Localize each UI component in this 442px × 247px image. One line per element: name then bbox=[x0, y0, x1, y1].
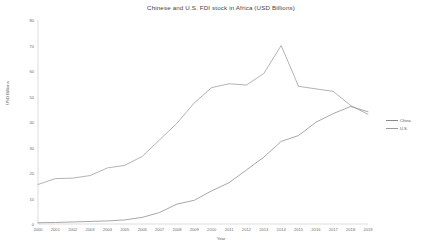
x-tick-label: 2015 bbox=[294, 227, 303, 232]
x-tick-label: 2012 bbox=[242, 227, 251, 232]
x-tick-label: 2006 bbox=[138, 227, 147, 232]
x-tick-label: 2005 bbox=[120, 227, 129, 232]
x-tick-label: 2002 bbox=[68, 227, 77, 232]
x-tick-label: 2009 bbox=[190, 227, 199, 232]
x-tick-label: 2017 bbox=[329, 227, 338, 232]
y-tick-label: 10 bbox=[29, 196, 34, 201]
y-tick-label: 50 bbox=[29, 94, 34, 99]
x-tick-label: 2007 bbox=[155, 227, 164, 232]
series-group bbox=[38, 46, 368, 223]
x-axis-label: Year bbox=[0, 236, 442, 241]
x-tick-label: 2003 bbox=[86, 227, 95, 232]
plot-svg bbox=[38, 20, 368, 224]
y-tick-label: 80 bbox=[29, 18, 34, 23]
y-axis-label: USD Billions bbox=[5, 81, 10, 105]
legend-item-china[interactable]: China bbox=[386, 116, 440, 124]
plot-area bbox=[38, 20, 368, 224]
x-tick-label: 2019 bbox=[363, 227, 372, 232]
y-axis-tick-labels: 01020304050607080 bbox=[18, 20, 34, 224]
legend-label: China bbox=[400, 118, 411, 123]
legend-swatch-icon bbox=[386, 128, 398, 129]
x-tick-label: 2008 bbox=[172, 227, 181, 232]
x-tick-label: 2000 bbox=[33, 227, 42, 232]
x-tick-label: 2013 bbox=[259, 227, 268, 232]
y-tick-label: 40 bbox=[29, 120, 34, 125]
x-tick-label: 2001 bbox=[51, 227, 60, 232]
legend-swatch-icon bbox=[386, 120, 398, 121]
x-tick-label: 2004 bbox=[103, 227, 112, 232]
x-tick-label: 2018 bbox=[346, 227, 355, 232]
x-tick-label: 2010 bbox=[207, 227, 216, 232]
y-tick-label: 70 bbox=[29, 43, 34, 48]
series-line-china bbox=[38, 106, 368, 222]
y-tick-label: 30 bbox=[29, 145, 34, 150]
x-tick-label: 2016 bbox=[311, 227, 320, 232]
y-tick-label: 20 bbox=[29, 171, 34, 176]
series-line-u-s bbox=[38, 46, 368, 185]
x-tick-label: 2014 bbox=[277, 227, 286, 232]
legend-label: U.S. bbox=[400, 126, 408, 131]
y-tick-label: 60 bbox=[29, 69, 34, 74]
fdi-line-chart: Chinese and U.S. FDI stock in Africa (US… bbox=[0, 0, 442, 247]
x-axis-tick-labels: 2000200120022003200420052006200720082009… bbox=[38, 227, 368, 236]
chart-title: Chinese and U.S. FDI stock in Africa (US… bbox=[0, 4, 442, 11]
y-tick-label: 0 bbox=[32, 222, 34, 227]
legend-item-u-s[interactable]: U.S. bbox=[386, 124, 440, 132]
chart-legend: ChinaU.S. bbox=[386, 116, 440, 132]
x-tick-label: 2011 bbox=[225, 227, 234, 232]
